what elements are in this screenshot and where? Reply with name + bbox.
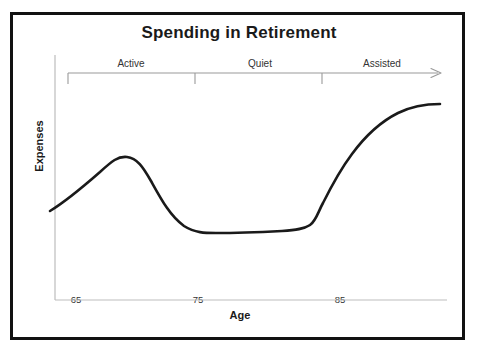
chart-plot-area (0, 0, 478, 354)
chart-figure: Spending in Retirement Active Quiet Assi… (0, 0, 478, 354)
expenses-curve (50, 104, 440, 233)
